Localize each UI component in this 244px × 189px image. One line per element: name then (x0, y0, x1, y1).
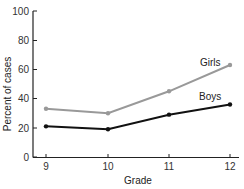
x-tick-label: 9 (43, 161, 49, 172)
y-tick-label: 60 (18, 64, 30, 75)
x-tick-label: 12 (224, 161, 236, 172)
x-tick-label: 10 (102, 161, 114, 172)
y-tick-label: 100 (12, 6, 29, 17)
data-point (106, 111, 110, 115)
data-point (228, 102, 232, 106)
data-point (228, 63, 232, 67)
x-ticks: 9 10 11 12 (43, 154, 236, 172)
data-point (167, 112, 171, 116)
y-axis-label: Percent of cases (2, 57, 13, 131)
x-axis-label: Grade (124, 175, 152, 186)
data-point (44, 107, 48, 111)
y-tick-label: 40 (18, 93, 30, 104)
y-tick-label: 0 (23, 152, 29, 163)
boys-series-line (46, 104, 230, 129)
data-point (44, 124, 48, 128)
y-tick-label: 20 (18, 123, 30, 134)
y-tick-label: 80 (18, 35, 30, 46)
boys-series-label: Boys (199, 91, 221, 102)
girls-series-label: Girls (200, 57, 221, 68)
x-tick-label: 11 (164, 161, 175, 172)
girls-series-points (44, 63, 232, 116)
line-chart: 0 20 40 60 80 100 9 10 11 12 Grade Perce… (0, 0, 244, 189)
data-point (106, 127, 110, 131)
data-point (167, 89, 171, 93)
girls-series-line (46, 65, 230, 113)
